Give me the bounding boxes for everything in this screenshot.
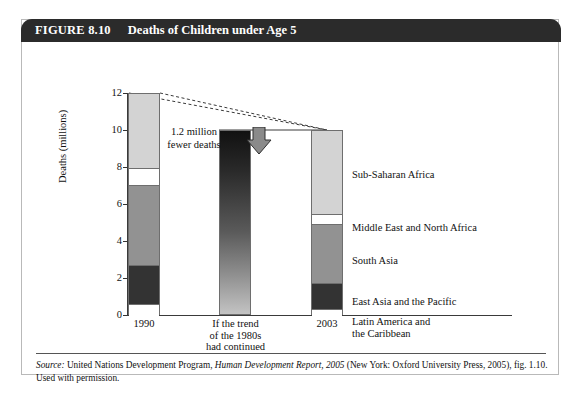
segment-2003-south-asia bbox=[312, 224, 342, 283]
y-tick-label-12: 12 bbox=[100, 87, 122, 98]
legend-label-latin-america-caribbean: Latin America and the Caribbean bbox=[352, 316, 430, 340]
y-axis-title: Deaths (millions) bbox=[57, 110, 68, 183]
segment-1990-latin-america-caribbean bbox=[129, 304, 159, 316]
x-axis-label-projection: If the trend of the 1980s had continued bbox=[198, 318, 273, 353]
legend-label-sub-saharan-africa: Sub-Saharan Africa bbox=[352, 169, 435, 181]
y-tick-mark-0 bbox=[123, 315, 127, 316]
y-tick-mark-10 bbox=[123, 130, 127, 131]
legend-label-middle-east-north-africa: Middle East and North Africa bbox=[352, 222, 477, 234]
legend-label-latin-america-line1: Latin America and bbox=[352, 316, 430, 328]
figure-container: FIGURE 8.10 Deaths of Children under Age… bbox=[21, 19, 559, 375]
bar-2003 bbox=[311, 130, 343, 315]
legend-label-south-asia: South Asia bbox=[352, 255, 398, 267]
bar-projection-trend-1980s bbox=[219, 130, 251, 315]
segment-1990-middle-east-north-africa bbox=[129, 168, 159, 185]
source-divider bbox=[36, 353, 546, 354]
legend-label-latin-america-line2: the Caribbean bbox=[352, 328, 430, 340]
annotation-fewer-deaths: 1.2 million fewer deaths bbox=[148, 126, 240, 151]
y-tick-mark-2 bbox=[123, 278, 127, 279]
y-tick-label-6: 6 bbox=[100, 198, 122, 209]
figure-title: Deaths of Children under Age 5 bbox=[128, 23, 297, 38]
x-axis-label-projection-line1: If the trend bbox=[198, 318, 273, 330]
chart-plot-area: Deaths (millions) 0 2 4 6 8 10 12 bbox=[22, 43, 560, 343]
y-tick-label-10: 10 bbox=[100, 124, 122, 135]
segment-2003-latin-america-caribbean bbox=[312, 309, 342, 316]
figure-number-label: FIGURE 8.10 bbox=[35, 23, 111, 38]
x-axis-label-1990: 1990 bbox=[118, 318, 170, 330]
annotation-line-2: fewer deaths bbox=[148, 139, 240, 152]
x-axis-label-projection-line3: had continued bbox=[198, 341, 273, 353]
source-publication-title: Human Development Report, 2005 bbox=[215, 360, 345, 370]
legend-label-east-asia-pacific: East Asia and the Pacific bbox=[352, 296, 456, 308]
y-tick-mark-6 bbox=[123, 204, 127, 205]
figure-header-bar: FIGURE 8.10 Deaths of Children under Age… bbox=[21, 19, 561, 42]
y-tick-label-8: 8 bbox=[100, 161, 122, 172]
source-text-part1: United Nations Development Program, bbox=[65, 360, 215, 370]
segment-2003-middle-east-north-africa bbox=[312, 214, 342, 224]
annotation-line-1: 1.2 million bbox=[148, 126, 240, 139]
y-tick-mark-12 bbox=[123, 93, 127, 94]
segment-2003-sub-saharan-africa bbox=[312, 131, 342, 214]
y-tick-mark-8 bbox=[123, 167, 127, 168]
source-prefix: Source: bbox=[36, 360, 65, 370]
source-note: Source: United Nations Development Progr… bbox=[36, 359, 548, 384]
y-tick-mark-4 bbox=[123, 241, 127, 242]
y-tick-label-4: 4 bbox=[100, 235, 122, 246]
segment-2003-east-asia-pacific bbox=[312, 283, 342, 309]
x-axis-label-projection-line2: of the 1980s bbox=[198, 330, 273, 342]
y-tick-label-2: 2 bbox=[100, 272, 122, 283]
segment-1990-south-asia bbox=[129, 185, 159, 265]
x-axis-label-2003: 2003 bbox=[301, 318, 353, 330]
segment-1990-east-asia-pacific bbox=[129, 265, 159, 304]
down-arrow-icon bbox=[246, 127, 272, 155]
